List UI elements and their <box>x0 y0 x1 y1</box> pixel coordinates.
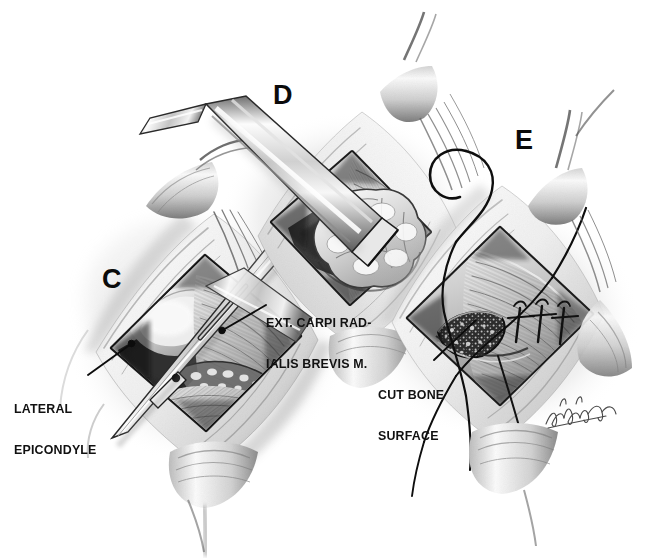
label-lateral-epicondyle: LATERAL EPICONDYLE <box>14 374 97 470</box>
panel-letter-d: D <box>273 82 293 109</box>
label-lateral-epicondyle-line2: EPICONDYLE <box>14 443 97 457</box>
label-ecrb-line1: EXT. CARPI RAD- <box>266 316 372 330</box>
label-ext-carpi-radialis-brevis: EXT. CARPI RAD- IALIS BREVIS M. <box>266 288 372 384</box>
label-ecrb-line2: IALIS BREVIS M. <box>266 357 372 371</box>
label-cut-bone-surface-line2: SURFACE <box>378 429 444 443</box>
illustration-canvas: C D E EXT. CARPI RAD- IALIS BREVIS M. LA… <box>0 0 654 558</box>
panel-letter-e: E <box>515 127 533 154</box>
label-lateral-epicondyle-line1: LATERAL <box>14 402 97 416</box>
label-cut-bone-surface: CUT BONE SURFACE <box>378 360 444 456</box>
label-cut-bone-surface-line1: CUT BONE <box>378 388 444 402</box>
panel-letter-c: C <box>102 266 122 293</box>
surgical-illustration <box>0 0 654 558</box>
